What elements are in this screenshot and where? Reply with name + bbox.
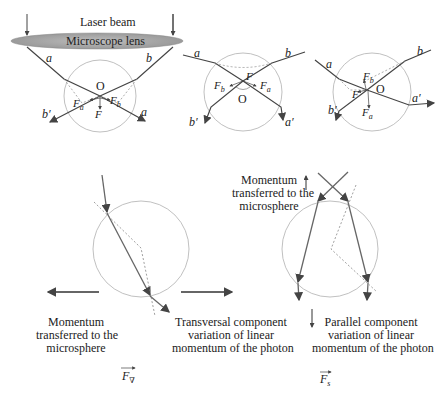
ray-b-out-label: b′ xyxy=(328,104,337,117)
microscope-lens-label: Microscope lens xyxy=(66,35,145,48)
gradient-force-label: F∇ xyxy=(122,370,135,387)
force-a-label: Fa xyxy=(73,97,84,114)
force-total-label: F xyxy=(95,108,102,121)
ray-b-out-label: b′ xyxy=(42,108,51,121)
incoming-ray xyxy=(102,175,107,212)
force-total-label: F xyxy=(246,70,253,83)
ray-b-label: b xyxy=(146,52,152,65)
force-a-label: Fa xyxy=(362,106,373,123)
force-total-label: F xyxy=(352,88,359,101)
laser-beam-label: Laser beam xyxy=(80,16,136,29)
force-b-label: Fb xyxy=(214,79,225,96)
ray-a-label: a xyxy=(194,47,200,60)
momentum-transferred-label: Momentum transferred to the microsphere xyxy=(36,316,116,355)
force-b-label: Fb xyxy=(363,70,374,87)
center-o-label: O xyxy=(238,93,247,106)
force-a-label: Fa xyxy=(260,79,271,96)
transversal-component-label: Transversal component variation of linea… xyxy=(172,316,290,355)
ray-a-out-label: a′ xyxy=(285,116,294,129)
scattering-force-label: Fs xyxy=(320,373,330,390)
microsphere-circle xyxy=(282,201,378,297)
center-o-label: O xyxy=(96,80,105,93)
parallel-component-label: Parallel component variation of linear m… xyxy=(312,316,430,355)
ray-a-out-label: a xyxy=(141,106,147,119)
ray-a-label: a xyxy=(326,58,332,71)
microsphere-circle xyxy=(93,201,189,297)
panel-top-middle xyxy=(173,14,305,131)
center-o-label: O xyxy=(376,83,385,96)
internal-ray xyxy=(107,213,150,295)
outgoing-ray xyxy=(150,296,169,312)
force-b-label: Fb xyxy=(110,94,121,111)
momentum-transferred-label: Momentum transferred to the microsphere xyxy=(232,174,306,213)
ray-b-label: b xyxy=(417,45,423,58)
ray-a-label: a xyxy=(46,52,52,65)
ray-b-out-label: b′ xyxy=(189,116,198,129)
ray-a-out-label: a′ xyxy=(412,92,421,105)
ray-b-label: b xyxy=(285,47,291,60)
